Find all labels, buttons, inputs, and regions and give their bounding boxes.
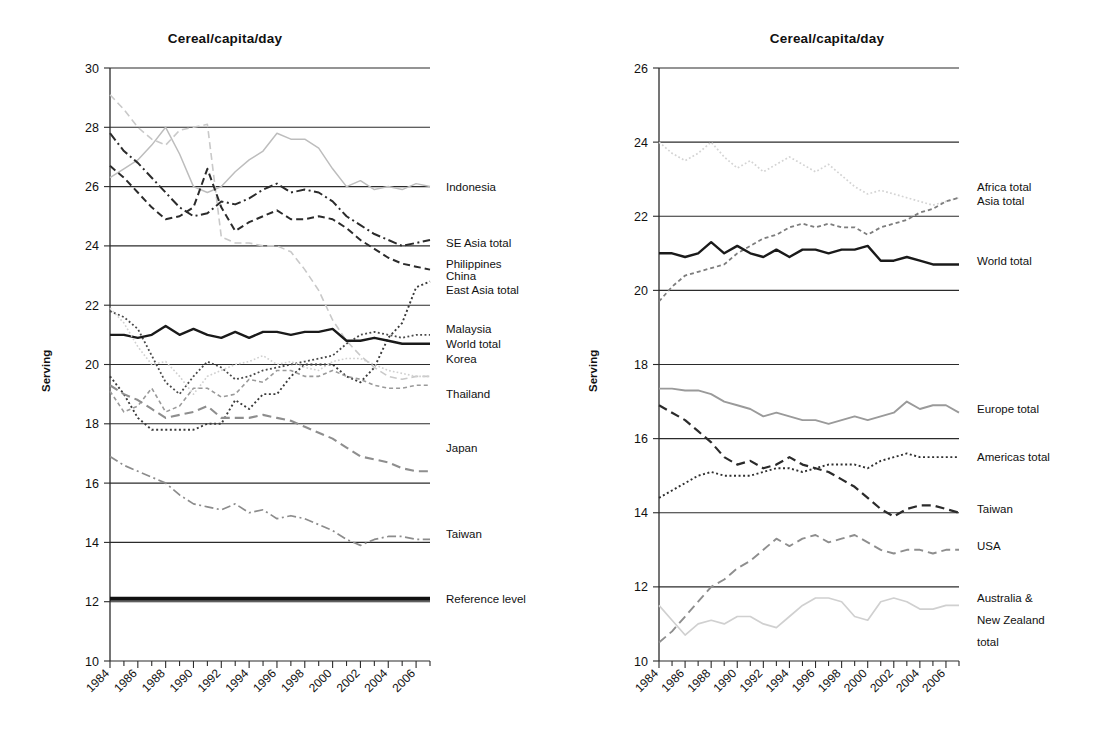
chart-panel-right: Cereal/capita/day Serving 10121416182022… (551, 0, 1111, 744)
legend-label: Philippines (446, 258, 502, 270)
x-tick-label: 1994 (222, 666, 251, 695)
x-tick-label: 2004 (893, 666, 922, 695)
y-tick-label: 26 (634, 62, 648, 76)
legend-label: Africa total (977, 181, 1031, 193)
y-tick-label: 14 (85, 536, 99, 550)
legend-label: China (446, 270, 477, 282)
legend-label: World total (446, 338, 501, 350)
x-tick-label: 1996 (250, 666, 279, 695)
x-tick-label: 1992 (737, 666, 766, 695)
series-line (659, 142, 959, 205)
y-tick-label: 28 (85, 121, 99, 135)
series-line (659, 598, 959, 635)
series-line (110, 133, 430, 246)
series-line (659, 389, 959, 424)
y-tick-label: 16 (634, 432, 648, 446)
x-tick-label: 1996 (789, 666, 818, 695)
y-tick-label: 24 (85, 239, 99, 253)
chart-panel-left: Cereal/capita/day Serving 10121416182022… (0, 0, 560, 744)
x-tick-label: 1994 (763, 666, 792, 695)
x-tick-label: 2000 (841, 666, 870, 695)
legend-label: Europe total (977, 403, 1039, 415)
series-line (110, 456, 430, 545)
x-tick-label: 1986 (111, 666, 140, 695)
x-tick-label: 2006 (919, 666, 948, 695)
x-tick-label: 1998 (278, 666, 307, 695)
legend-label: total (977, 636, 999, 648)
series-line (659, 453, 959, 497)
legend-label: Malaysia (446, 323, 492, 335)
legend-label: East Asia total (446, 284, 519, 296)
series-line (659, 242, 959, 264)
x-tick-label: 2002 (867, 666, 896, 695)
series-line (110, 385, 430, 471)
y-tick-label: 24 (634, 136, 648, 150)
legend-label: USA (977, 540, 1001, 552)
x-tick-label: 2006 (389, 666, 418, 695)
chart-svg-left: 1012141618202224262830198419861988199019… (0, 0, 560, 744)
y-tick-label: 16 (85, 477, 99, 491)
x-tick-label: 2002 (334, 666, 363, 695)
y-tick-label: 10 (85, 655, 99, 669)
series-line (110, 308, 430, 394)
y-tick-label: 12 (634, 580, 648, 594)
x-tick-label: 1990 (167, 666, 196, 695)
legend-label: Taiwan (446, 528, 482, 540)
legend-label: New Zealand (977, 614, 1045, 626)
legend-label: Asia total (977, 195, 1024, 207)
legend-label: Indonesia (446, 181, 496, 193)
y-tick-label: 18 (634, 358, 648, 372)
legend-label: Taiwan (977, 503, 1013, 515)
y-tick-label: 20 (634, 284, 648, 298)
legend-label: Japan (446, 442, 477, 454)
y-tick-label: 10 (634, 655, 648, 669)
y-tick-label: 22 (85, 299, 99, 313)
legend-label: Korea (446, 353, 477, 365)
y-tick-label: 26 (85, 180, 99, 194)
series-line (110, 326, 430, 344)
series-line (110, 370, 430, 412)
x-tick-label: 1990 (711, 666, 740, 695)
x-tick-label: 1984 (632, 666, 661, 695)
x-tick-label: 2004 (362, 666, 391, 695)
x-tick-label: 2000 (306, 666, 335, 695)
series-line (110, 281, 430, 429)
legend-label: Reference level (446, 593, 526, 605)
x-tick-label: 1992 (195, 666, 224, 695)
legend-label: Australia & (977, 592, 1033, 604)
series-line (659, 405, 959, 516)
x-tick-label: 1984 (83, 666, 112, 695)
x-tick-label: 1986 (658, 666, 687, 695)
x-tick-label: 1988 (685, 666, 714, 695)
y-tick-label: 18 (85, 417, 99, 431)
y-tick-label: 14 (634, 506, 648, 520)
y-tick-label: 12 (85, 595, 99, 609)
y-tick-label: 20 (85, 358, 99, 372)
legend-label: SE Asia total (446, 237, 511, 249)
legend-label: World total (977, 255, 1032, 267)
series-line (110, 127, 430, 192)
y-tick-label: 30 (85, 62, 99, 76)
legend-label: Thailand (446, 388, 490, 400)
legend-label: Americas total (977, 451, 1050, 463)
y-tick-label: 22 (634, 210, 648, 224)
series-line (659, 535, 959, 642)
series-line (110, 166, 430, 270)
x-tick-label: 1998 (815, 666, 844, 695)
chart-svg-right: 1012141618202224261984198619881990199219… (551, 0, 1111, 744)
x-tick-label: 1988 (139, 666, 168, 695)
